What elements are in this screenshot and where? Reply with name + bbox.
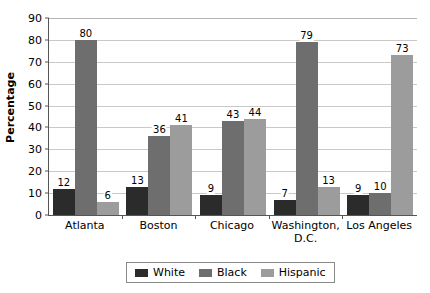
legend-label: White bbox=[153, 266, 185, 279]
plot-area: 9080706050403020100 12806133641943447791… bbox=[48, 18, 417, 216]
bar-value-label: 12 bbox=[56, 177, 71, 188]
x-axis-label: Atlanta bbox=[48, 219, 122, 245]
bar-slot: 79 bbox=[296, 18, 318, 215]
x-axis-label: Boston bbox=[122, 219, 196, 245]
bar-slot: 80 bbox=[75, 18, 97, 215]
x-axis-label-line: Atlanta bbox=[48, 219, 122, 232]
bar-white[interactable]: 13 bbox=[126, 187, 148, 215]
bar-slot: 36 bbox=[148, 18, 170, 215]
bar-slot: 43 bbox=[222, 18, 244, 215]
y-axis-title: Percentage bbox=[0, 0, 20, 215]
bar-value-label: 13 bbox=[321, 175, 336, 186]
bar-hispanic[interactable]: 41 bbox=[170, 125, 192, 215]
y-tick-label: 60 bbox=[28, 77, 49, 90]
y-tick-label: 50 bbox=[28, 99, 49, 112]
bar-value-label: 10 bbox=[373, 181, 388, 192]
bar-value-label: 7 bbox=[280, 188, 288, 199]
bar-groups: 12806133641943447791391073 bbox=[49, 18, 417, 215]
bar-slot: 13 bbox=[126, 18, 148, 215]
legend-swatch-icon bbox=[199, 269, 212, 277]
x-axis-label-line: Washington, bbox=[269, 219, 343, 232]
bar-black[interactable]: 43 bbox=[222, 121, 244, 215]
bar-group: 94344 bbox=[196, 18, 270, 215]
bar-value-label: 80 bbox=[78, 28, 93, 39]
bar-black[interactable]: 79 bbox=[296, 42, 318, 215]
bar-slot: 6 bbox=[97, 18, 119, 215]
chart-legend: WhiteBlackHispanic bbox=[126, 262, 335, 283]
bar-black[interactable]: 80 bbox=[75, 40, 97, 215]
bar-value-label: 13 bbox=[130, 175, 145, 186]
bar-slot: 41 bbox=[170, 18, 192, 215]
y-axis-title-text: Percentage bbox=[4, 72, 17, 143]
legend-swatch-icon bbox=[135, 269, 148, 277]
y-tick-label: 20 bbox=[28, 165, 49, 178]
bar-white[interactable]: 9 bbox=[347, 195, 369, 215]
bar-value-label: 6 bbox=[104, 190, 112, 201]
x-axis-label-line: Los Angeles bbox=[342, 219, 416, 232]
x-axis-labels: AtlantaBostonChicagoWashington,D.C.Los A… bbox=[48, 219, 416, 245]
bar-slot: 10 bbox=[369, 18, 391, 215]
bar-hispanic[interactable]: 73 bbox=[391, 55, 413, 215]
bar-value-label: 43 bbox=[226, 109, 241, 120]
y-tick-label: 40 bbox=[28, 121, 49, 134]
y-tick-label: 90 bbox=[28, 12, 49, 25]
bar-slot: 13 bbox=[318, 18, 340, 215]
legend-item-white[interactable]: White bbox=[135, 266, 185, 279]
bar-white[interactable]: 7 bbox=[274, 200, 296, 215]
x-axis-label-line: Boston bbox=[122, 219, 196, 232]
legend-item-hispanic[interactable]: Hispanic bbox=[261, 266, 326, 279]
legend-label: Hispanic bbox=[279, 266, 326, 279]
bar-group: 77913 bbox=[270, 18, 344, 215]
bar-chart: Percentage 9080706050403020100 128061336… bbox=[0, 0, 430, 293]
bar-group: 12806 bbox=[49, 18, 123, 215]
bar-hispanic[interactable]: 13 bbox=[318, 187, 340, 215]
bar-white[interactable]: 12 bbox=[53, 189, 75, 215]
bar-value-label: 9 bbox=[354, 183, 362, 194]
legend-swatch-icon bbox=[261, 269, 274, 277]
bar-value-label: 73 bbox=[395, 43, 410, 54]
bar-group: 133641 bbox=[123, 18, 197, 215]
bar-value-label: 9 bbox=[207, 183, 215, 194]
legend-item-black[interactable]: Black bbox=[199, 266, 247, 279]
bar-slot: 9 bbox=[200, 18, 222, 215]
bar-slot: 12 bbox=[53, 18, 75, 215]
bar-value-label: 79 bbox=[299, 30, 314, 41]
y-tick-label: 70 bbox=[28, 55, 49, 68]
bar-hispanic[interactable]: 44 bbox=[244, 119, 266, 215]
bar-slot: 73 bbox=[391, 18, 413, 215]
y-tick-label: 80 bbox=[28, 33, 49, 46]
bar-black[interactable]: 10 bbox=[369, 193, 391, 215]
x-axis-label-line: Chicago bbox=[195, 219, 269, 232]
bar-slot: 44 bbox=[244, 18, 266, 215]
bar-group: 91073 bbox=[343, 18, 417, 215]
x-axis-label: Los Angeles bbox=[342, 219, 416, 245]
bar-value-label: 44 bbox=[248, 107, 263, 118]
y-tick-label: 0 bbox=[35, 209, 49, 222]
bar-black[interactable]: 36 bbox=[148, 136, 170, 215]
x-axis-label: Washington,D.C. bbox=[269, 219, 343, 245]
y-tick-label: 30 bbox=[28, 143, 49, 156]
x-axis-label-line: D.C. bbox=[269, 232, 343, 245]
y-tick-label: 10 bbox=[28, 187, 49, 200]
bar-slot: 9 bbox=[347, 18, 369, 215]
bar-slot: 7 bbox=[274, 18, 296, 215]
bar-hispanic[interactable]: 6 bbox=[97, 202, 119, 215]
x-axis-label: Chicago bbox=[195, 219, 269, 245]
bar-value-label: 41 bbox=[174, 113, 189, 124]
plot-inner: 9080706050403020100 12806133641943447791… bbox=[49, 18, 417, 215]
bar-value-label: 36 bbox=[152, 124, 167, 135]
bar-white[interactable]: 9 bbox=[200, 195, 222, 215]
legend-label: Black bbox=[217, 266, 247, 279]
